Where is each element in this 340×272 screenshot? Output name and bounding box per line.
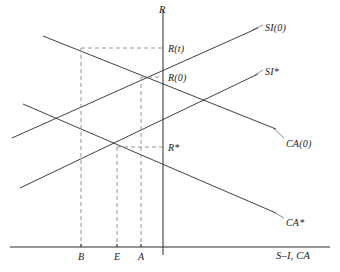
diagram-canvas (0, 0, 340, 272)
curve-label-ca-star: CA* (286, 217, 304, 228)
vertical-axis-label: R (159, 4, 166, 15)
value-label-r-t: R(t) (168, 43, 184, 54)
value-label-r-0: R(0) (168, 72, 187, 83)
value-label-r-star: R* (168, 142, 180, 153)
leader-ca-star (272, 211, 284, 218)
curve-si-0 (12, 28, 258, 138)
curve-si-star (20, 74, 258, 188)
tick-label-e: E (114, 251, 120, 262)
leader-si-star (252, 70, 263, 77)
leader-ca-0 (272, 127, 284, 138)
curve-label-si-0: SI(0) (265, 22, 286, 33)
tick-label-a: A (138, 251, 144, 262)
curve-ca-star (23, 104, 276, 213)
curve-label-si-star: SI* (265, 66, 279, 77)
curve-label-ca-0: CA(0) (286, 138, 311, 149)
horizontal-axis-label: S–I, CA (276, 250, 310, 261)
economics-diagram: R S–I, CA SI(0) SI* CA(0) CA* R(t) R(0) … (0, 0, 340, 272)
tick-label-b: B (78, 251, 84, 262)
leader-si-0 (252, 25, 263, 30)
